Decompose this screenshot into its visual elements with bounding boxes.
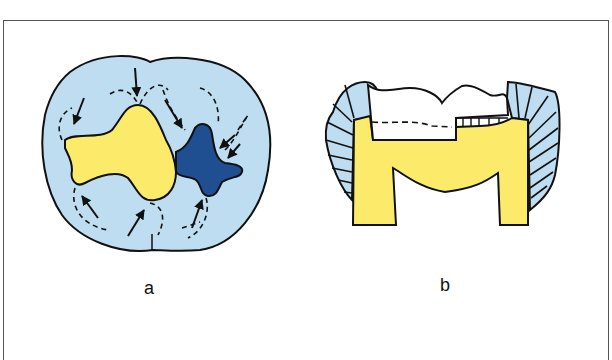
panel-label-b: b [440,275,450,296]
panel-a [42,56,270,251]
panel-b [326,82,560,225]
panel-label-a: a [144,278,154,299]
